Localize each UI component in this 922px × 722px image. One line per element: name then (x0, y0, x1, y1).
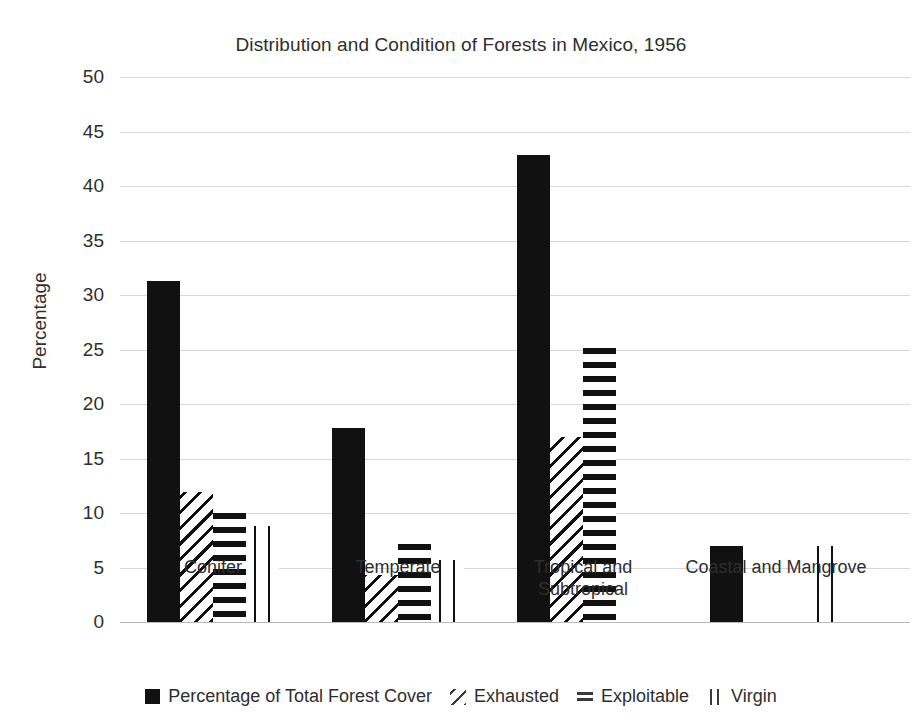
chart-legend: Percentage of Total Forest CoverExhauste… (0, 686, 922, 707)
legend-label: Percentage of Total Forest Cover (168, 686, 432, 707)
horizontal-stripes-icon (577, 689, 593, 705)
y-tick-label-30: 30 (30, 285, 104, 304)
x-axis-label-line: Tropical and (473, 556, 693, 578)
y-tick-label-50: 50 (30, 67, 104, 86)
x-axis-label-line: Subtropical (473, 578, 693, 600)
y-tick-label-45: 45 (30, 122, 104, 141)
legend-label: Virgin (731, 686, 777, 707)
diagonal-hatch-icon (450, 689, 466, 705)
vertical-lines-icon (707, 689, 723, 705)
chart-title: Distribution and Condition of Forests in… (0, 34, 922, 56)
legend-entry-3[interactable]: Virgin (707, 686, 777, 707)
x-axis-label-line: Coastal and Mangrove (666, 556, 886, 578)
y-axis-title: Percentage (29, 241, 51, 401)
y-tick-label-35: 35 (30, 231, 104, 250)
gridline-20 (120, 404, 910, 405)
gridline-40 (120, 186, 910, 187)
gridline-50 (120, 77, 910, 78)
legend-entry-2[interactable]: Exploitable (577, 686, 689, 707)
x-axis-label-2: Tropical andSubtropical (473, 556, 693, 600)
gridline-0 (120, 622, 910, 623)
bar (365, 575, 398, 622)
chart-figure: Distribution and Condition of Forests in… (0, 0, 922, 722)
y-tick-label-25: 25 (30, 340, 104, 359)
gridline-45 (120, 132, 910, 133)
legend-entry-1[interactable]: Exhausted (450, 686, 559, 707)
y-tick-label-0: 0 (30, 612, 104, 631)
x-axis-label-3: Coastal and Mangrove (666, 556, 886, 578)
gridline-15 (120, 459, 910, 460)
y-tick-label-20: 20 (30, 394, 104, 413)
legend-label: Exhausted (474, 686, 559, 707)
plot-area (120, 77, 910, 622)
legend-label: Exploitable (601, 686, 689, 707)
bar (332, 428, 365, 622)
gridline-35 (120, 241, 910, 242)
gridline-25 (120, 350, 910, 351)
solid-square-icon (145, 689, 160, 704)
gridline-30 (120, 295, 910, 296)
y-tick-label-15: 15 (30, 449, 104, 468)
y-tick-label-5: 5 (30, 558, 104, 577)
bar (517, 155, 550, 622)
y-tick-label-10: 10 (30, 503, 104, 522)
legend-entry-0[interactable]: Percentage of Total Forest Cover (145, 686, 432, 707)
y-tick-label-40: 40 (30, 176, 104, 195)
